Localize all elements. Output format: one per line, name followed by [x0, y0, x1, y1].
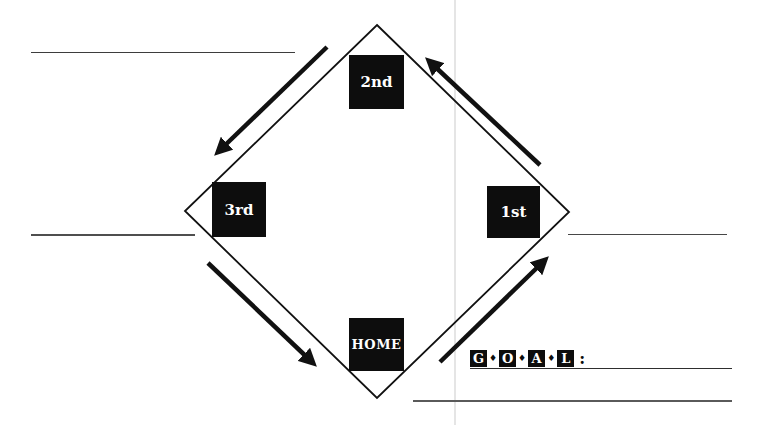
goal-letter-l: L — [557, 350, 574, 367]
goal-letter-o: O — [499, 350, 516, 367]
base-third-label: 3rd — [225, 201, 254, 219]
blank-line-left-middle — [31, 234, 195, 236]
blank-line-bottom — [413, 400, 732, 402]
goal-letter-a: A — [528, 350, 545, 367]
blank-line-right-middle — [568, 234, 727, 235]
base-second: 2nd — [349, 55, 404, 109]
blank-line-goal — [470, 368, 732, 369]
goal-label: G ♦ O ♦ A ♦ L : — [470, 349, 585, 367]
blank-line-top-left — [31, 52, 295, 53]
arrow-second-to-third-icon — [218, 47, 327, 152]
base-home: HOME — [349, 318, 404, 371]
diamond-separator-icon: ♦ — [518, 350, 526, 367]
arrow-first-to-second-icon — [429, 61, 540, 165]
base-first: 1st — [487, 186, 540, 238]
base-third: 3rd — [212, 182, 266, 237]
base-home-label: HOME — [352, 337, 402, 352]
base-second-label: 2nd — [361, 73, 393, 91]
worksheet-canvas: 2nd 3rd 1st HOME G ♦ O ♦ A ♦ L : — [0, 0, 760, 425]
goal-letter-g: G — [470, 350, 487, 367]
goal-colon: : — [579, 350, 585, 367]
base-first-label: 1st — [501, 203, 527, 221]
arrow-third-to-home-icon — [208, 263, 313, 363]
diamond-separator-icon: ♦ — [547, 350, 555, 367]
diamond-separator-icon: ♦ — [489, 350, 497, 367]
